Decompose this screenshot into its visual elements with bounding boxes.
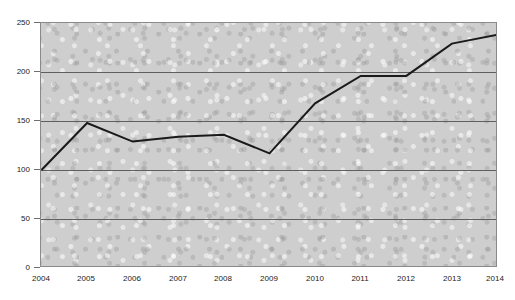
x-tick-label: 2014 — [486, 274, 504, 283]
y-tick-label: 150 — [17, 116, 30, 125]
x-tick-label: 2013 — [443, 274, 461, 283]
data-series-line — [42, 35, 498, 170]
x-tick-label: 2011 — [351, 274, 368, 283]
y-tick-label: 0 — [26, 263, 30, 272]
x-tick-label: 2004 — [32, 274, 50, 283]
x-axis: 2004 2005 2006 2007 2008 2009 2010 2011 … — [0, 274, 515, 290]
y-tick-mark — [34, 267, 40, 268]
y-tick-label: 50 — [21, 214, 30, 223]
chart-figure: 250 200 150 100 50 0 2004 2005 2006 2007… — [0, 0, 515, 300]
y-axis: 250 200 150 100 50 0 — [0, 0, 36, 300]
plot-svg — [41, 23, 497, 267]
x-tick-label: 2012 — [397, 274, 415, 283]
plot-area — [40, 22, 497, 267]
x-tick-label: 2008 — [214, 274, 232, 283]
x-tick-label: 2007 — [169, 274, 187, 283]
y-tick-label: 200 — [17, 67, 30, 76]
gridlines — [41, 73, 497, 220]
x-tick-label: 2005 — [77, 274, 95, 283]
chart-title-fragment — [0, 0, 515, 8]
x-tick-label: 2009 — [260, 274, 278, 283]
y-tick-label: 100 — [17, 165, 30, 174]
x-tick-label: 2006 — [123, 274, 141, 283]
y-tick-label: 250 — [17, 18, 30, 27]
x-tick-label: 2010 — [306, 274, 324, 283]
